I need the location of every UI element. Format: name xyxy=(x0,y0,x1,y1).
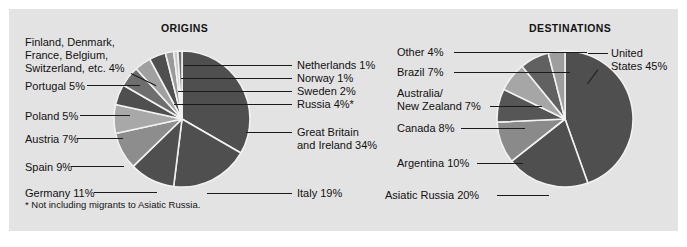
destinations-leader-united-states-h xyxy=(588,53,608,54)
origins-leader-russia xyxy=(174,104,292,105)
destinations-label-brazil: Brazil 7% xyxy=(397,66,443,79)
destinations-label-australia-nz: Australia/ New Zealand 7% xyxy=(397,87,481,113)
destinations-leader-brazil xyxy=(454,72,570,73)
origins-label-poland: Poland 5% xyxy=(25,110,78,123)
destinations-label-united-states: United States 45% xyxy=(611,47,667,73)
origins-label-norway: Norway 1% xyxy=(297,72,353,85)
origins-leader-germany xyxy=(94,192,157,193)
infographic-figure: ORIGINS Finland, Denmark, France, Belgiu… xyxy=(9,9,678,231)
origins-label-portugal: Portugal 5% xyxy=(25,80,85,93)
destinations-panel: DESTINATIONS Other 4% Brazil 7% Australi… xyxy=(379,9,678,231)
origins-leader-great-britain xyxy=(246,132,292,133)
destinations-leader-asiatic-russia xyxy=(497,195,549,196)
destinations-label-asiatic-russia: Asiatic Russia 20% xyxy=(385,189,479,202)
panel-divider xyxy=(378,9,379,231)
origins-label-finland-group: Finland, Denmark, France, Belgium, Switz… xyxy=(25,36,125,76)
destinations-title: DESTINATIONS xyxy=(529,22,611,34)
destinations-leader-australia-nz xyxy=(490,106,542,107)
destinations-label-canada: Canada 8% xyxy=(397,122,455,135)
origins-leader-sweden xyxy=(178,91,292,92)
origins-leader-netherlands xyxy=(184,65,292,66)
origins-label-sweden: Sweden 2% xyxy=(297,85,356,98)
origins-pie-chart xyxy=(112,49,252,189)
origins-leader-austria xyxy=(77,138,123,139)
destinations-leader-argentina xyxy=(477,163,523,164)
destinations-leader-canada xyxy=(461,128,525,129)
destinations-label-other: Other 4% xyxy=(397,46,443,59)
origins-label-spain: Spain 9% xyxy=(25,161,72,174)
destinations-label-argentina: Argentina 10% xyxy=(397,157,469,170)
origins-label-russia: Russia 4%* xyxy=(297,98,354,111)
origins-leader-spain xyxy=(71,166,124,167)
origins-leader-norway xyxy=(181,78,292,79)
origins-leader-poland xyxy=(80,115,130,116)
origins-leader-italy xyxy=(207,193,292,194)
origins-label-netherlands: Netherlands 1% xyxy=(297,59,375,72)
origins-label-italy: Italy 19% xyxy=(297,187,342,200)
origins-panel: ORIGINS Finland, Denmark, France, Belgiu… xyxy=(9,9,379,231)
destinations-leader-other xyxy=(454,52,587,53)
origins-leader-portugal xyxy=(87,85,140,86)
origins-pie-svg xyxy=(112,49,252,189)
origins-title: ORIGINS xyxy=(161,22,208,34)
origins-label-austria: Austria 7% xyxy=(25,133,78,146)
origins-footnote: * Not including migrants to Asiatic Russ… xyxy=(25,199,200,210)
origins-label-great-britain: Great Britain and Ireland 34% xyxy=(297,126,377,152)
